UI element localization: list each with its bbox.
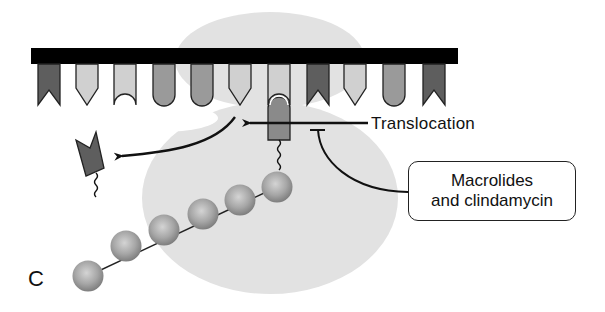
codon-3 [114,64,136,105]
codon-1 [38,64,60,105]
codon-4 [153,64,175,106]
amino-acid-bead [111,231,142,262]
amino-acid-bead [262,172,293,203]
codon-10 [383,64,405,106]
codon-2 [76,64,98,105]
amino-acid-bead [149,215,180,246]
released-trna [76,132,104,197]
mrna-codons [38,64,445,106]
panel-letter: C [28,266,44,292]
codon-5 [191,64,213,106]
drug-label-line2: and clindamycin [431,191,553,211]
codon-9 [344,64,366,105]
translocation-label: Translocation [371,114,475,134]
amino-acid-bead [188,199,219,230]
codon-11 [423,64,445,105]
subunit-gap [102,104,218,132]
drug-label-box: Macrolides and clindamycin [408,161,576,221]
mrna-strand [31,48,458,64]
amino-acid-bead [225,185,256,216]
amino-acid-bead [73,261,104,292]
released-trna-tail [95,173,98,197]
ribosome-diagram [0,0,605,312]
drug-label-line1: Macrolides [451,171,533,191]
